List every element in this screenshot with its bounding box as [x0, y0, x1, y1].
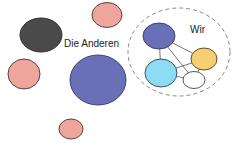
us-node-light-blue: [145, 59, 177, 87]
us-label: Wir: [190, 24, 205, 35]
us-node-indigo: [143, 23, 175, 49]
us-node-white: [183, 72, 205, 89]
other-node-indigo-large: [70, 55, 126, 105]
other-node-pink-top: [92, 3, 122, 28]
us-node-yellow: [191, 48, 217, 70]
others-label: Die Anderen: [64, 38, 119, 49]
other-node-dark-grey: [20, 18, 62, 52]
other-node-pink-left: [8, 59, 40, 89]
diagram-canvas: [0, 0, 237, 143]
other-node-pink-bottom: [59, 119, 83, 139]
